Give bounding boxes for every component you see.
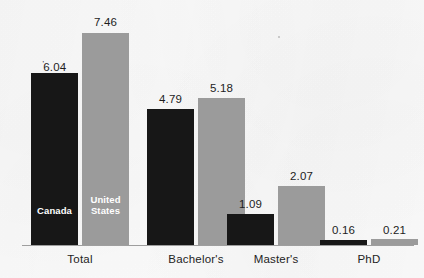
bar-canada-bachelors bbox=[147, 109, 194, 245]
value-label-canada-masters: 1.09 bbox=[223, 198, 278, 211]
value-label-united-states-total: 7.46 bbox=[78, 16, 133, 29]
x-axis-line bbox=[22, 245, 414, 246]
value-label-canada-bachelors: 4.79 bbox=[143, 93, 198, 106]
category-label-masters: Master's bbox=[241, 253, 311, 265]
value-label-united-states-bachelors: 5.18 bbox=[194, 82, 249, 95]
category-label-total: Total bbox=[52, 253, 108, 265]
bar-canada-total bbox=[31, 73, 78, 245]
legend-inbar-canada: Canada bbox=[31, 205, 78, 216]
value-label-canada-total: '6.04 bbox=[27, 57, 82, 74]
value-label-canada-phd: 0.16 bbox=[316, 224, 371, 237]
value-label-united-states-phd: 0.21 bbox=[367, 224, 422, 237]
plot-area: '6.04 7.46 Canada UnitedStates 4.79 5.18… bbox=[0, 0, 424, 278]
category-label-bachelors: Bachelor's bbox=[160, 253, 232, 265]
scan-speck bbox=[278, 36, 280, 38]
value-label-united-states-masters: 2.07 bbox=[274, 170, 329, 183]
legend-inbar-united-states: UnitedStates bbox=[82, 194, 129, 216]
value-text: 6.04 bbox=[43, 61, 66, 73]
bar-chart: '6.04 7.46 Canada UnitedStates 4.79 5.18… bbox=[0, 0, 424, 278]
bar-canada-masters bbox=[227, 214, 274, 245]
legend-inbar-line1: United bbox=[90, 194, 120, 205]
category-label-phd: PhD bbox=[341, 253, 397, 265]
legend-inbar-line2: States bbox=[91, 205, 120, 216]
